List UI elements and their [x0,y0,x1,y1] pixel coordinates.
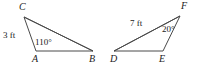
vertex-label-d: D [110,54,117,64]
angle-f-measure-label: 20° [162,25,175,34]
vertex-label-c: C [19,2,26,12]
vertex-label-e: E [159,54,165,64]
vertex-label-a: A [32,54,38,64]
geometry-figure: C A B 3 ft 110° F D E 7 ft 20° [0,0,197,66]
vertex-label-b: B [89,54,95,64]
side-df-length-label: 7 ft [130,19,142,28]
side-ca-length-label: 3 ft [3,31,15,40]
angle-a-measure-label: 110° [35,38,52,47]
vertex-label-f: F [181,1,187,11]
